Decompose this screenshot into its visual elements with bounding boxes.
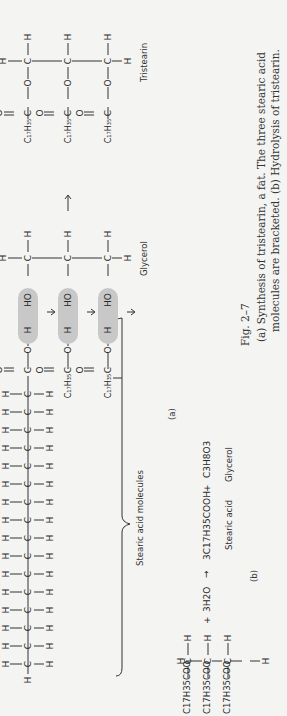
svg-text:H: H: [1, 391, 11, 398]
svg-text:H: H: [23, 327, 33, 334]
svg-text:H: H: [261, 658, 271, 665]
svg-text:H: H: [123, 255, 133, 262]
svg-text:C: C: [23, 58, 33, 64]
svg-text:C: C: [23, 643, 33, 649]
figure-page: H CHH CHH CHH CHH CHH CHH CHH CHH CHH CH…: [0, 0, 287, 716]
svg-text:O: O: [63, 79, 73, 86]
svg-text:H: H: [45, 535, 55, 542]
glycerol-product-label: Glycerol: [225, 447, 234, 482]
svg-text:C: C: [23, 553, 33, 559]
svg-text:C: C: [23, 463, 33, 469]
svg-text:H: H: [45, 571, 55, 578]
svg-text:C₁₇H₃₅: C₁₇H₃₅: [104, 374, 113, 398]
svg-text:C: C: [103, 58, 113, 64]
svg-text:H: H: [45, 409, 55, 416]
svg-text:H: H: [103, 231, 113, 238]
svg-text:H: H: [1, 589, 11, 596]
svg-text:H: H: [45, 427, 55, 434]
svg-text:H: H: [223, 635, 233, 642]
svg-text:H: H: [1, 409, 11, 416]
svg-text:H: H: [203, 635, 213, 642]
svg-text:C: C: [63, 255, 73, 261]
svg-text:HO: HO: [103, 293, 113, 307]
svg-text:C: C: [23, 110, 33, 116]
svg-text:H: H: [1, 499, 11, 506]
svg-text:H: H: [45, 445, 55, 452]
svg-text:C: C: [23, 427, 33, 433]
svg-text:H: H: [0, 255, 8, 262]
svg-text:C₁₇H₃₅: C₁₇H₃₅: [24, 119, 33, 143]
svg-text:C: C: [23, 499, 33, 505]
svg-text:H: H: [23, 231, 33, 238]
svg-text:C₁₇H₃₅: C₁₇H₃₅: [64, 374, 73, 398]
svg-text:H: H: [63, 34, 73, 41]
svg-text:O: O: [63, 346, 73, 353]
svg-text:H: H: [1, 607, 11, 614]
svg-text:C: C: [23, 535, 33, 541]
reactant-group-2: C17H35COO: [203, 661, 212, 714]
stearic-acid-formula: 3C17H35COOH: [203, 491, 212, 560]
svg-text:C: C: [23, 481, 33, 487]
svg-text:H: H: [103, 34, 113, 41]
svg-text:H: H: [1, 535, 11, 542]
atom-labels: H CHH CHH CHH CHH CHH CHH CHH CHH CHH CH…: [0, 0, 287, 716]
caption-line-2: molecules are bracketed. (b) Hydrolysis …: [270, 49, 281, 332]
svg-text:H: H: [1, 427, 11, 434]
svg-text:C₁₇H₃₅: C₁₇H₃₅: [104, 119, 113, 143]
svg-text:O: O: [75, 109, 85, 116]
svg-text:O: O: [0, 366, 4, 373]
svg-text:H: H: [1, 571, 11, 578]
svg-text:H: H: [1, 463, 11, 470]
svg-text:H: H: [45, 463, 55, 470]
svg-text:C: C: [23, 409, 33, 415]
svg-text:C: C: [23, 607, 33, 613]
reaction-arrow: →: [202, 570, 211, 578]
svg-text:C: C: [23, 255, 33, 261]
reactant-group-3: C17H35COO: [223, 661, 232, 714]
figure-number: Fig. 2–7: [240, 303, 251, 346]
stearic-acid-label: Stearic acid: [225, 500, 234, 550]
svg-text:H: H: [45, 589, 55, 596]
glycerol-formula: C3H8O3: [203, 441, 212, 478]
svg-text:H: H: [123, 58, 133, 65]
svg-text:H: H: [1, 643, 11, 650]
svg-text:H: H: [23, 677, 33, 684]
svg-text:C: C: [103, 110, 113, 116]
svg-text:H: H: [1, 661, 11, 668]
svg-text:H: H: [45, 625, 55, 632]
reactant-group-1: C17H35COO: [183, 661, 192, 714]
svg-text:H: H: [45, 499, 55, 506]
svg-text:H: H: [183, 635, 193, 642]
svg-text:H: H: [1, 553, 11, 560]
svg-text:H: H: [45, 517, 55, 524]
svg-text:C: C: [63, 110, 73, 116]
water-formula: 3H2O: [203, 587, 212, 612]
svg-text:H: H: [45, 553, 55, 560]
svg-text:H: H: [1, 445, 11, 452]
svg-text:C: C: [63, 367, 73, 373]
svg-text:C: C: [23, 625, 33, 631]
svg-text:C: C: [103, 367, 113, 373]
svg-text:C₁₇H₃₅: C₁₇H₃₅: [64, 119, 73, 143]
svg-text:H: H: [103, 327, 113, 334]
svg-text:HO: HO: [23, 293, 33, 307]
caption-line-1: (a) Synthesis of tristearin, a fat. The …: [256, 52, 267, 342]
svg-text:H: H: [45, 481, 55, 488]
svg-text:O: O: [23, 346, 33, 353]
svg-text:O: O: [103, 79, 113, 86]
svg-text:C: C: [63, 58, 73, 64]
stearic-acid-molecules-label: Stearic acid molecules: [136, 470, 145, 566]
svg-text:HO: HO: [63, 293, 73, 307]
svg-text:O: O: [75, 366, 85, 373]
svg-text:C: C: [23, 445, 33, 451]
svg-text:C: C: [23, 367, 33, 373]
svg-text:H: H: [63, 327, 73, 334]
svg-text:H: H: [1, 517, 11, 524]
svg-text:H: H: [63, 231, 73, 238]
panel-b-label: (b): [250, 570, 259, 582]
svg-text:O: O: [103, 346, 113, 353]
svg-text:O: O: [35, 366, 45, 373]
svg-text:C: C: [23, 391, 33, 397]
glycerol-label: Glycerol: [140, 241, 149, 276]
svg-text:O: O: [0, 109, 4, 116]
